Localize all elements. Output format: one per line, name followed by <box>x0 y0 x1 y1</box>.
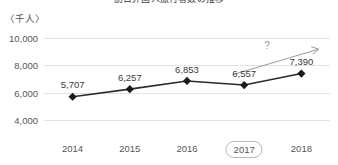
data-point-label: 6,557 <box>232 68 256 79</box>
data-point-label: 6,257 <box>118 72 142 83</box>
y-axis-tick-label: 6,000 <box>14 87 38 98</box>
y-axis-tick-label: 8,000 <box>14 60 38 71</box>
x-axis-tick-2015[interactable]: 2015 <box>113 141 146 156</box>
line-chart: 訪日外国人旅行者数の推移 〈千人〉 4,0006,0008,00010,000 … <box>0 0 338 165</box>
plot-area: 4,0006,0008,00010,000 5,7076,2576,8536,5… <box>44 28 330 134</box>
question-mark-annotation: ? <box>264 39 270 50</box>
data-point-label: 5,707 <box>61 79 85 90</box>
x-axis-tick-2017[interactable]: 2017 <box>226 141 263 158</box>
data-point-label: 6,853 <box>175 64 199 75</box>
annotation-layer <box>44 28 330 134</box>
y-axis-unit-label: 〈千人〉 <box>5 11 45 25</box>
chart-title: 訪日外国人旅行者数の推移 <box>0 0 338 5</box>
y-axis-tick-label: 10,000 <box>9 32 38 43</box>
x-axis-tick-2014[interactable]: 2014 <box>56 141 89 156</box>
x-axis-tick-2018[interactable]: 2018 <box>285 141 318 156</box>
x-axis-tick-2016[interactable]: 2016 <box>170 141 203 156</box>
data-point-label: 7,390 <box>290 56 314 67</box>
y-axis-tick-label: 4,000 <box>14 115 38 126</box>
x-axis: 20142015201620172018 <box>44 137 330 159</box>
